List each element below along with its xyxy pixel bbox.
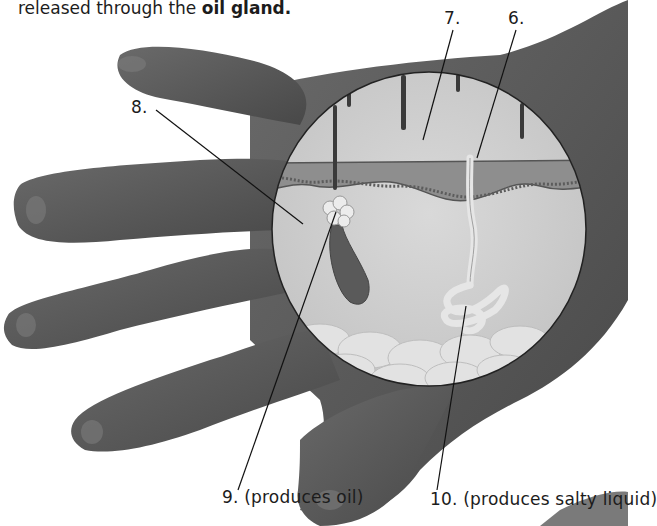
label-number: 9. [222, 487, 239, 507]
label-number: 10. [430, 489, 458, 509]
label-caption: (produces oil) [244, 487, 363, 507]
label-number: 8. [131, 97, 148, 117]
label-8: 8. [131, 97, 148, 117]
label-number: 7. [444, 8, 461, 28]
label-7: 7. [444, 8, 461, 28]
intro-text: released through the oil gland. [18, 0, 291, 18]
label-caption: (produces salty liquid) [463, 489, 657, 509]
intro-text-bold: oil gland. [202, 0, 291, 18]
intro-text-prefix: released through the [18, 0, 202, 18]
label-10: 10. (produces salty liquid) [430, 489, 657, 509]
label-number: 6. [508, 8, 525, 28]
label-9: 9. (produces oil) [222, 487, 364, 507]
label-6: 6. [508, 8, 525, 28]
